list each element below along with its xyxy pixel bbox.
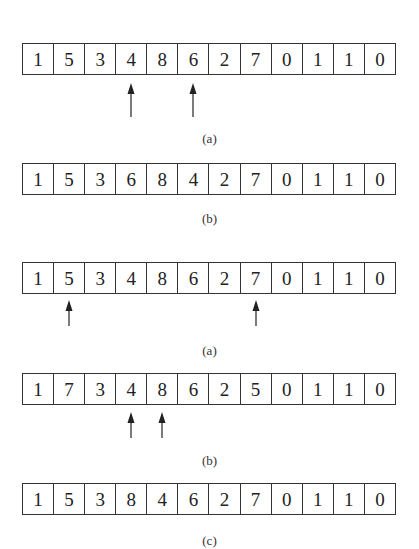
- array-cell: 4: [116, 374, 147, 404]
- array-cell: 1: [303, 484, 334, 514]
- up-arrow-icon: [251, 300, 261, 326]
- array-row: 153486270110: [22, 43, 396, 75]
- array-cell: 3: [85, 263, 116, 293]
- subfigure-label: (b): [0, 453, 419, 469]
- array-row: 173486250110: [22, 373, 396, 405]
- up-arrow-icon: [64, 300, 74, 326]
- array-cell: 8: [147, 263, 178, 293]
- array-cell: 5: [241, 374, 272, 404]
- subfigure-label: (b): [0, 211, 419, 227]
- array-row: 153486270110: [22, 262, 396, 294]
- array-cell: 2: [209, 263, 240, 293]
- array-cell: 1: [23, 44, 54, 74]
- array-cell: 2: [209, 374, 240, 404]
- array-cell: 0: [272, 374, 303, 404]
- array-cell: 1: [23, 164, 54, 194]
- subfigure-label: (a): [0, 343, 419, 359]
- array-cell: 0: [365, 484, 395, 514]
- array-cell: 7: [54, 374, 85, 404]
- array-cell: 1: [303, 263, 334, 293]
- up-arrow-icon: [126, 412, 136, 438]
- array-cell: 0: [272, 484, 303, 514]
- array-cell: 3: [85, 44, 116, 74]
- array-cell: 7: [241, 484, 272, 514]
- array-cell: 0: [272, 44, 303, 74]
- array-cell: 4: [178, 164, 209, 194]
- up-arrow-icon: [126, 83, 136, 117]
- array-cell: 1: [303, 164, 334, 194]
- array-cell: 4: [116, 44, 147, 74]
- array-cell: 3: [85, 164, 116, 194]
- array-cell: 6: [178, 263, 209, 293]
- array-cell: 8: [147, 44, 178, 74]
- array-cell: 2: [209, 164, 240, 194]
- array-cell: 6: [116, 164, 147, 194]
- array-cell: 8: [116, 484, 147, 514]
- array-cell: 3: [85, 484, 116, 514]
- array-cell: 7: [241, 263, 272, 293]
- array-cell: 1: [334, 44, 365, 74]
- array-cell: 1: [334, 263, 365, 293]
- up-arrow-icon: [157, 412, 167, 438]
- array-cell: 1: [303, 374, 334, 404]
- array-cell: 1: [334, 164, 365, 194]
- array-cell: 0: [365, 263, 395, 293]
- array-cell: 4: [116, 263, 147, 293]
- array-cell: 1: [23, 263, 54, 293]
- subfigure-label: (c): [0, 533, 419, 549]
- array-row: 153846270110: [22, 483, 396, 515]
- array-cell: 8: [147, 164, 178, 194]
- array-cell: 1: [334, 374, 365, 404]
- array-cell: 2: [209, 44, 240, 74]
- array-cell: 0: [365, 374, 395, 404]
- array-row: 153684270110: [22, 163, 396, 195]
- up-arrow-icon: [188, 83, 198, 117]
- array-cell: 7: [241, 44, 272, 74]
- array-cell: 4: [147, 484, 178, 514]
- array-cell: 5: [54, 44, 85, 74]
- array-cell: 5: [54, 263, 85, 293]
- array-cell: 5: [54, 164, 85, 194]
- array-cell: 3: [85, 374, 116, 404]
- array-cell: 0: [272, 263, 303, 293]
- array-cell: 0: [365, 164, 395, 194]
- array-cell: 2: [209, 484, 240, 514]
- array-cell: 1: [23, 484, 54, 514]
- array-cell: 6: [178, 44, 209, 74]
- subfigure-label: (a): [0, 131, 419, 147]
- array-cell: 7: [241, 164, 272, 194]
- array-cell: 6: [178, 374, 209, 404]
- array-cell: 8: [147, 374, 178, 404]
- array-cell: 1: [303, 44, 334, 74]
- array-cell: 0: [365, 44, 395, 74]
- array-cell: 1: [334, 484, 365, 514]
- array-cell: 6: [178, 484, 209, 514]
- array-cell: 5: [54, 484, 85, 514]
- array-cell: 0: [272, 164, 303, 194]
- array-cell: 1: [23, 374, 54, 404]
